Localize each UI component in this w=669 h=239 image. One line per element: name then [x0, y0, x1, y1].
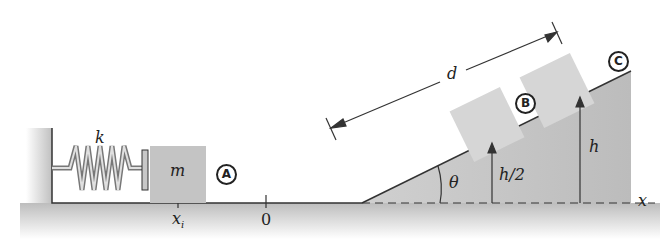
ground: [20, 203, 660, 239]
physics-diagram: [0, 0, 669, 239]
spring: [52, 146, 148, 190]
point-a-marker: A: [216, 164, 237, 185]
point-c-marker: C: [608, 51, 629, 72]
height-label: h: [589, 139, 599, 155]
mass-label: m: [170, 163, 185, 179]
x-axis-label: x: [638, 193, 647, 209]
point-b-marker: B: [515, 93, 536, 114]
half-height-label: h/2: [499, 167, 525, 183]
spring-constant-label: k: [95, 130, 105, 146]
wall: [26, 128, 52, 203]
origin-label: 0: [261, 212, 271, 228]
angle-label: θ: [449, 175, 459, 191]
distance-label: d: [447, 66, 457, 82]
initial-position-label: xi: [172, 211, 184, 230]
